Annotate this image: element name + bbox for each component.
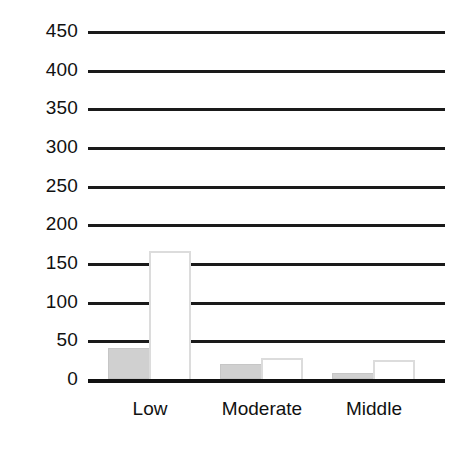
y-axis-tick-label: 250: [8, 176, 78, 195]
y-axis-tick-label: 400: [8, 60, 78, 79]
y-axis-tick-label: 150: [8, 253, 78, 272]
bar-low-gray: [108, 348, 150, 379]
plot-area: [88, 31, 445, 379]
bar-low-white: [149, 251, 191, 379]
y-axis-tick-label: 300: [8, 137, 78, 156]
y-axis-tick-label: 50: [8, 330, 78, 349]
bar-chart: 450 400 350 300 250 200 150 100 50 0 Low…: [0, 0, 464, 460]
y-axis-tick-label: 350: [8, 98, 78, 117]
y-axis-tick-label: 100: [8, 292, 78, 311]
bar-moderate-gray: [220, 364, 262, 379]
x-axis-label-low: Low: [133, 398, 168, 420]
x-axis-label-middle: Middle: [346, 398, 402, 420]
y-axis-tick-label: 450: [8, 21, 78, 40]
x-axis-baseline: [88, 379, 445, 383]
bar-middle-white: [373, 360, 415, 379]
x-axis-label-moderate: Moderate: [222, 398, 302, 420]
y-axis-tick-label: 200: [8, 214, 78, 233]
bar-moderate-white: [261, 358, 303, 379]
y-axis-tick-label: 0: [8, 369, 78, 388]
